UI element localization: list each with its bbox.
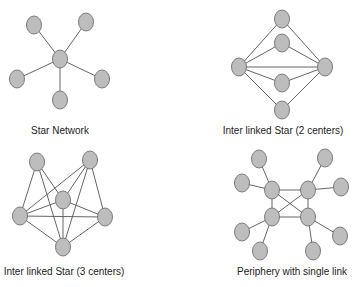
node-circle	[275, 34, 290, 52]
node-circle	[95, 70, 110, 88]
diagram-periphery-single-link	[235, 149, 349, 260]
node-circle	[318, 58, 333, 76]
node-circle	[79, 13, 94, 31]
node-circle	[53, 91, 68, 109]
node-circle	[56, 191, 71, 209]
node-circle	[30, 153, 45, 171]
network-topologies-canvas	[0, 0, 357, 287]
node-circle	[275, 10, 290, 28]
node-circle	[301, 181, 316, 199]
diagram-star-network	[10, 13, 110, 109]
node-circle	[334, 178, 349, 196]
node-circle	[252, 150, 267, 168]
node-circle	[235, 223, 250, 241]
node-circle	[265, 208, 280, 226]
node-circle	[275, 74, 290, 92]
caption-periphery-single-link: Periphery with single link	[237, 266, 347, 277]
node-circle	[265, 181, 280, 199]
node-circle	[98, 208, 113, 226]
caption-star-network: Star Network	[31, 125, 89, 136]
node-circle	[13, 207, 28, 225]
diagram-interlinked-star-3-centers	[13, 151, 113, 256]
caption-interlinked-star-2-centers: Inter linked Star (2 centers)	[223, 125, 344, 136]
node-circle	[318, 149, 333, 167]
node-circle	[301, 208, 316, 226]
node-circle	[333, 227, 348, 245]
node-circle	[275, 101, 290, 119]
node-circle	[306, 242, 321, 260]
node-circle	[27, 16, 42, 34]
node-circle	[83, 151, 98, 169]
edge-line	[20, 160, 90, 216]
diagram-interlinked-star-2-centers	[232, 10, 333, 119]
node-circle	[232, 58, 247, 76]
node-circle	[56, 238, 71, 256]
node-circle	[53, 50, 68, 68]
node-circle	[10, 70, 25, 88]
node-circle	[253, 242, 268, 260]
node-circle	[235, 174, 250, 192]
caption-interlinked-star-3-centers: Inter linked Star (3 centers)	[4, 266, 125, 277]
edge-line	[20, 216, 105, 217]
